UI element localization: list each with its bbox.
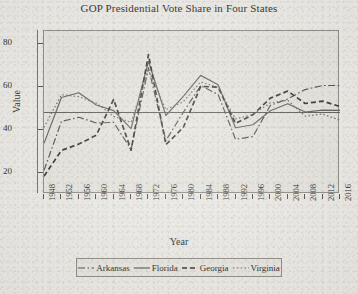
- y-tick-label: 80: [0, 37, 12, 47]
- x-tick-label: 1976: [169, 184, 179, 201]
- x-tick-label: 1964: [117, 184, 127, 201]
- legend-item-virginia[interactable]: Virginia: [233, 263, 280, 273]
- solid-key: [134, 264, 150, 272]
- x-tick-mark: [339, 194, 340, 199]
- legend-label: Virginia: [251, 263, 280, 273]
- y-tick-mark: [38, 86, 43, 87]
- dotted-key: [233, 264, 249, 272]
- x-tick-mark: [304, 194, 305, 199]
- y-tick-mark: [38, 129, 43, 130]
- legend-label: Georgia: [200, 263, 229, 273]
- y-tick-label: 40: [0, 123, 12, 133]
- x-tick-mark: [182, 194, 183, 199]
- x-tick-mark: [43, 194, 44, 199]
- x-tick-label: 2000: [273, 184, 283, 201]
- x-tick-mark: [165, 194, 166, 199]
- x-tick-label: 1968: [134, 184, 144, 201]
- series-line-florida: [44, 61, 340, 143]
- x-tick-mark: [269, 194, 270, 199]
- x-tick-label: 1980: [186, 184, 196, 201]
- x-tick-label: 1952: [64, 184, 74, 201]
- x-tick-mark: [287, 194, 288, 199]
- series-layer: [44, 55, 340, 177]
- x-axis-title: Year: [0, 236, 358, 247]
- x-tick-label: 1988: [221, 184, 231, 201]
- x-tick-mark: [322, 194, 323, 199]
- chart-legend: ArkansasFloridaGeorgiaVirginia: [76, 258, 282, 277]
- dash-dot-key: [78, 264, 94, 272]
- x-tick-label: 2016: [343, 184, 353, 201]
- x-tick-label: 1996: [256, 184, 266, 201]
- legend-item-georgia[interactable]: Georgia: [182, 263, 229, 273]
- plot-svg: [44, 31, 340, 194]
- y-tick-mark: [38, 172, 43, 173]
- legend-label: Florida: [152, 263, 178, 273]
- x-tick-label: 1948: [47, 184, 57, 201]
- x-tick-mark: [235, 194, 236, 199]
- y-tick-label: 20: [0, 166, 12, 176]
- x-tick-mark: [200, 194, 201, 199]
- x-tick-label: 1984: [204, 184, 214, 201]
- y-tick-label: 60: [0, 80, 12, 90]
- legend-item-florida[interactable]: Florida: [134, 263, 178, 273]
- x-tick-mark: [147, 194, 148, 199]
- x-tick-label: 1992: [239, 184, 249, 201]
- y-axis-title: Value: [11, 72, 22, 132]
- legend-label: Arkansas: [96, 263, 130, 273]
- dashed-key: [182, 264, 198, 272]
- plot-area: [43, 30, 339, 193]
- page-title: GOP Presidential Vote Share in Four Stat…: [0, 2, 358, 14]
- x-tick-label: 1960: [99, 184, 109, 201]
- series-line-georgia: [44, 55, 340, 177]
- legend-item-arkansas[interactable]: Arkansas: [78, 263, 130, 273]
- x-tick-label: 1956: [82, 184, 92, 201]
- x-tick-mark: [130, 194, 131, 199]
- x-tick-label: 2012: [326, 184, 336, 201]
- x-tick-mark: [113, 194, 114, 199]
- x-tick-label: 2004: [291, 184, 301, 201]
- x-tick-mark: [95, 194, 96, 199]
- x-tick-mark: [60, 194, 61, 199]
- y-tick-mark: [38, 43, 43, 44]
- x-tick-mark: [78, 194, 79, 199]
- x-tick-mark: [252, 194, 253, 199]
- y-axis-line: [37, 30, 38, 193]
- x-tick-mark: [217, 194, 218, 199]
- x-tick-label: 2008: [308, 184, 318, 201]
- x-tick-label: 1972: [151, 184, 161, 201]
- series-line-arkansas: [44, 68, 340, 171]
